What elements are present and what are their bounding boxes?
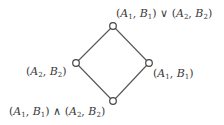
node-meet — [110, 98, 117, 105]
nodes — [73, 23, 153, 105]
node-a2b2 — [73, 60, 80, 67]
edges — [79, 29, 147, 99]
paren: ) — [62, 65, 66, 78]
comma: , — [26, 105, 33, 118]
var-b: B — [140, 7, 148, 20]
join-operator: ∨ — [157, 7, 172, 20]
var-b: B — [177, 67, 185, 80]
paren: ) — [189, 67, 193, 80]
edge-join-a1b1 — [116, 29, 147, 61]
edge-join-a2b2 — [79, 29, 111, 61]
edge-a1b1-meet — [116, 66, 147, 99]
var-b: B — [50, 65, 58, 78]
var-b: B — [33, 105, 41, 118]
comma: , — [170, 67, 177, 80]
label-a2b2: (A2, B2) — [26, 66, 67, 78]
paren: ) — [101, 105, 105, 118]
meet-operator: ∧ — [50, 105, 65, 118]
node-a1b1 — [146, 60, 153, 67]
paren: ) — [208, 7, 212, 20]
label-a1b1: (A1, B1) — [153, 68, 194, 80]
label-meet: (A1, B1) ∧ (A2, B2) — [9, 106, 105, 118]
edge-a2b2-meet — [79, 66, 111, 99]
node-join — [110, 23, 117, 30]
comma: , — [133, 7, 140, 20]
var-a: A — [176, 7, 184, 20]
var-a: A — [69, 105, 77, 118]
comma: , — [43, 65, 50, 78]
label-join: (A1, B1) ∨ (A2, B2) — [116, 8, 212, 20]
